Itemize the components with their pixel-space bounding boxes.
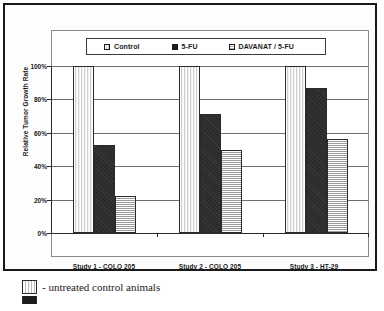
- y-tick-label-40: 40%: [21, 163, 47, 170]
- legend-label-davanat: DAVANAT / 5-FU: [239, 43, 294, 50]
- x-axis-line: [51, 233, 369, 234]
- bar-study2-control: [179, 66, 200, 233]
- legend-label-control: Control: [114, 43, 140, 50]
- y-axis-line: [51, 66, 52, 234]
- y-axis-ticks: 100% 80% 60% 40% 20% 0%: [17, 66, 47, 233]
- bar-study2-davanat: [221, 150, 242, 234]
- x-tick-1: [157, 233, 158, 237]
- footnote-row-5fu: [22, 296, 372, 304]
- x-axis-label-study-1: Study 1 - COLO 205: [73, 263, 135, 270]
- y-tick-label-20: 20%: [21, 196, 47, 203]
- y-tick-label-0: 0%: [21, 230, 47, 237]
- legend-swatch-davanat-icon: [229, 44, 235, 50]
- bar-group-study-1: [51, 66, 157, 233]
- footnote-swatch-control-icon: [22, 280, 37, 294]
- x-tick-3: [368, 233, 369, 237]
- legend-label-5fu: 5-FU: [182, 43, 198, 50]
- y-tick-label-60: 60%: [21, 129, 47, 136]
- y-tick-label-100: 100%: [21, 63, 47, 70]
- bar-study1-davanat: [115, 196, 136, 233]
- bar-group-study-2: [157, 66, 263, 233]
- bar-study3-davanat: [327, 139, 348, 233]
- footnote-legend: - untreated control animals: [22, 279, 372, 304]
- bar-group-study-3: [263, 66, 369, 233]
- y-tick-label-80: 80%: [21, 96, 47, 103]
- bar-study1-control: [73, 66, 94, 233]
- chart-legend: Control 5-FU DAVANAT / 5-FU: [86, 38, 326, 55]
- chart-outer-frame: Control 5-FU DAVANAT / 5-FU Relative Tum…: [3, 3, 377, 271]
- bar-study3-control: [285, 66, 306, 233]
- legend-entry-5fu: 5-FU: [172, 43, 198, 50]
- legend-entry-davanat: DAVANAT / 5-FU: [229, 43, 294, 50]
- x-tick-2: [263, 233, 264, 237]
- footnote-row-control: - untreated control animals: [22, 279, 372, 295]
- plot-area: [51, 66, 369, 233]
- legend-swatch-control-icon: [104, 44, 110, 50]
- footnote-swatch-5fu-icon: [22, 296, 37, 304]
- legend-swatch-5fu-icon: [172, 44, 178, 50]
- footnote-text-control: - untreated control animals: [42, 281, 160, 293]
- bar-study2-5fu: [200, 114, 221, 233]
- legend-entry-control: Control: [104, 43, 140, 50]
- bar-study3-5fu: [306, 88, 327, 233]
- x-axis-label-study-3: Study 3 - HT-29: [290, 263, 338, 270]
- x-axis-label-study-2: Study 2 - COLO 205: [179, 263, 241, 270]
- bar-study1-5fu: [94, 145, 115, 234]
